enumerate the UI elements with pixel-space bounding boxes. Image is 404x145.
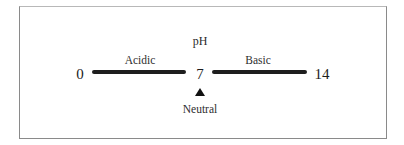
acidic-range-bar xyxy=(92,70,186,74)
triangle-up-icon xyxy=(195,88,205,96)
acidic-region-label: Acidic xyxy=(125,55,156,67)
diagram-title: pH xyxy=(193,35,208,47)
neutral-label: Neutral xyxy=(183,104,217,116)
basic-range-bar xyxy=(212,70,307,74)
scale-max-label: 14 xyxy=(315,67,330,82)
scale-mid-label: 7 xyxy=(196,67,204,82)
scale-min-label: 0 xyxy=(76,67,84,82)
basic-region-label: Basic xyxy=(245,55,271,67)
